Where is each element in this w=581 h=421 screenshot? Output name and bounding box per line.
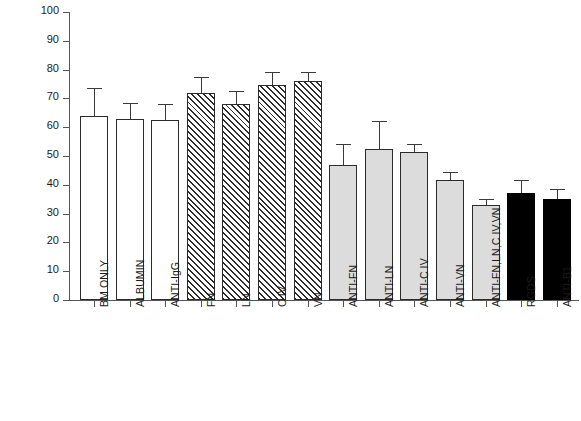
error-bar (414, 144, 415, 151)
x-axis-tick (557, 301, 558, 307)
error-bar (343, 144, 344, 164)
error-bar-cap (123, 103, 138, 104)
error-bar-cap (194, 77, 209, 78)
x-axis-tick (201, 301, 202, 307)
error-bar-cap (443, 172, 458, 173)
x-axis-category-label: ANTI-FN,LN,C IV,VN (490, 208, 502, 307)
attachment-bar-chart: % ATTACHMENT 0102030405060708090100 BM O… (0, 0, 581, 421)
x-axis-category-label: ANTI-FN (347, 265, 359, 307)
bar (294, 81, 322, 300)
error-bar (130, 103, 131, 119)
error-bar-cap (514, 180, 529, 181)
y-axis-tick: 30 (63, 214, 69, 215)
x-axis-category-label: ANTI-IgG (169, 262, 181, 307)
x-axis-tick (414, 301, 415, 307)
error-bar-cap (479, 199, 494, 200)
y-axis-tick-label: 80 (47, 62, 59, 74)
x-axis-category-label: VN (312, 292, 324, 307)
error-bar (521, 180, 522, 193)
x-axis-category-label: C IV (276, 286, 288, 307)
x-axis-tick (343, 301, 344, 307)
y-axis-tick: 70 (63, 98, 69, 99)
y-axis-tick: 60 (63, 127, 69, 128)
x-axis-tick (130, 301, 131, 307)
bar (187, 93, 215, 300)
x-axis-tick (308, 301, 309, 307)
x-axis-category-label: ANTI-VN (454, 264, 466, 307)
error-bar (379, 121, 380, 148)
y-axis-tick-label: 40 (47, 177, 59, 189)
y-axis-tick-label: 90 (47, 33, 59, 45)
x-axis-tick (521, 301, 522, 307)
x-axis-category-label: ALBUMIN (134, 260, 146, 307)
x-axis-category-label: FN (205, 293, 217, 307)
error-bar-cap (407, 144, 422, 145)
x-axis-tick (236, 301, 237, 307)
error-bar (165, 104, 166, 120)
x-axis-category-label: RGDS (525, 276, 537, 307)
x-axis-tick (486, 301, 487, 307)
y-axis-tick: 100 (63, 12, 69, 13)
error-bar-cap (301, 72, 316, 73)
error-bar-cap (372, 121, 387, 122)
error-bar (94, 88, 95, 115)
y-axis-tick: 90 (63, 41, 69, 42)
y-axis-tick: 10 (63, 271, 69, 272)
x-axis-category-label: ANTI-C IV (418, 258, 430, 307)
y-axis-tick-label: 70 (47, 90, 59, 102)
x-axis-tick (379, 301, 380, 307)
y-axis-tick: 40 (63, 185, 69, 186)
y-axis-tick: 50 (63, 156, 69, 157)
y-axis-tick-label: 100 (41, 4, 59, 16)
y-axis-line (69, 12, 70, 301)
x-axis-tick (450, 301, 451, 307)
error-bar-cap (336, 144, 351, 145)
y-axis-tick: 80 (63, 70, 69, 71)
error-bar-cap (229, 91, 244, 92)
x-axis-tick (272, 301, 273, 307)
x-axis-category-label: LN (240, 293, 252, 307)
error-bar-cap (87, 88, 102, 89)
y-axis-tick-label: 60 (47, 119, 59, 131)
error-bar-cap (265, 72, 280, 73)
error-bar (557, 189, 558, 199)
x-axis-category-label: ANTI-LN (383, 265, 395, 307)
y-axis-tick: 0 (63, 300, 69, 301)
error-bar (201, 77, 202, 93)
error-bar (450, 172, 451, 181)
error-bar-cap (158, 104, 173, 105)
error-bar (308, 72, 309, 81)
bar (258, 85, 286, 300)
bar (222, 104, 250, 300)
x-axis-category-label: ANTI-B1 (561, 266, 573, 307)
y-axis-tick-label: 10 (47, 263, 59, 275)
y-axis-tick-label: 30 (47, 206, 59, 218)
error-bar (272, 72, 273, 85)
x-axis-category-label: BM ONLY (98, 260, 110, 307)
y-axis-tick: 20 (63, 242, 69, 243)
y-axis-tick-label: 0 (53, 292, 59, 304)
y-axis-tick-label: 20 (47, 234, 59, 246)
x-axis-tick (165, 301, 166, 307)
x-axis-tick (94, 301, 95, 307)
error-bar (236, 91, 237, 104)
y-axis-tick-label: 50 (47, 148, 59, 160)
error-bar-cap (550, 189, 565, 190)
